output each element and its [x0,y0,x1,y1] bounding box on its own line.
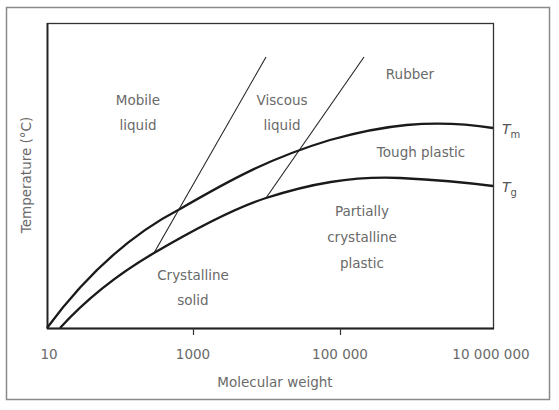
outer-frame [7,8,550,400]
region-label-mobile-liquid-1: Mobile [116,92,160,108]
x-tick-label-100000: 100 000 [312,346,368,362]
region-label-crystalline-solid-1: Crystalline [157,267,229,283]
region-label-crystalline-solid-2: solid [177,292,208,308]
region-label-partially-crystalline-3: plastic [340,255,384,271]
boundary-line-1 [154,57,266,253]
region-label-rubber: Rubber [386,66,435,82]
region-label-viscous-liquid-1: Viscous [257,92,308,108]
y-axis-title: Temperature (°C) [18,117,34,235]
region-label-partially-crystalline-2: crystalline [327,229,397,245]
region-label-mobile-liquid-2: liquid [120,117,157,133]
x-tick-label-10000000: 10 000 000 [452,346,529,362]
region-label-viscous-liquid-2: liquid [264,117,301,133]
x-tick-label-1000: 1000 [176,346,210,362]
tg-curve [60,178,493,328]
x-tick-label-10: 10 [40,346,57,362]
x-axis-title: Molecular weight [217,374,332,390]
tg-label: Tg [502,179,517,198]
region-label-tough-plastic: Tough plastic [376,144,465,160]
region-label-partially-crystalline-1: Partially [335,203,389,219]
molecular-weight-temperature-diagram: Mobile liquid Viscous liquid Rubber Toug… [0,0,559,410]
tm-label: Tm [502,121,520,140]
